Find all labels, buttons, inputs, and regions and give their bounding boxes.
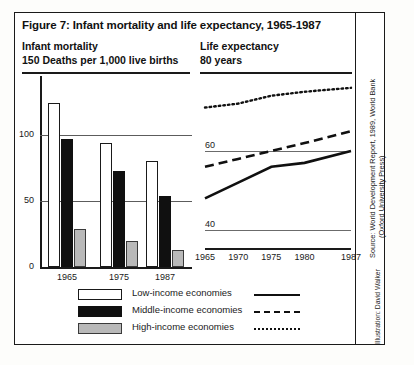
bar-y-tick-label: 100 [18,129,34,139]
bar-y-tick-label: 50 [18,195,34,205]
line-series-high-income [205,88,351,108]
bar-chart-y-axis [40,76,42,268]
bar-x-tick-label: 1965 [42,272,92,282]
legend-item-middle-income: Middle-income economies [78,303,314,320]
bar-high-income-1965 [74,229,86,267]
legend-swatch-high-income [78,323,122,334]
legend-swatch-low-income [78,289,122,300]
bar-high-income-1975 [126,241,138,267]
legend-label-middle-income: Middle-income economies [132,304,242,315]
legend-item-high-income: High-income economies [78,320,314,337]
figure-page: Figure 7: Infant mortality and life expe… [0,0,414,365]
legend-line-solid [254,294,300,296]
bar-middle-income-1975 [113,171,125,267]
line-x-tick-label: 1965 [192,252,218,262]
infant-mortality-bar-chart: 050100 196519751987 [22,76,192,272]
line-x-tick-label: 1975 [258,252,284,262]
source-note-line2: (Oxford University Press) [377,155,386,238]
legend-line-dotted [254,328,300,330]
legend-swatch-middle-income [78,306,122,317]
bar-low-income-1975 [100,143,112,267]
legend-label-high-income: High-income economies [132,321,234,332]
chart-legend: Low-income economies Middle-income econo… [78,286,314,337]
bar-high-income-1987 [172,250,184,267]
left-chart-top-rule [22,72,190,74]
line-chart-plot [200,60,360,272]
left-chart-subheading: 150 Deaths per 1,000 live births [22,54,178,66]
bar-x-tick-label: 1975 [94,272,144,282]
line-series-low-income [205,151,351,198]
bar-gridline [40,135,192,136]
line-x-tick-label: 1970 [225,252,251,262]
right-chart-heading: Life expectancy [200,40,279,52]
line-x-tick-label: 1980 [292,252,318,262]
source-note-line1: Source: World Development Report, 1989, … [368,79,377,258]
bar-chart-x-axis [40,267,192,269]
left-chart-heading: Infant mortality [22,40,98,52]
bar-y-tick-label: 0 [18,261,34,271]
life-expectancy-line-chart: 4060 19651970197519801987 [200,60,360,272]
bar-middle-income-1965 [61,139,73,267]
illustration-credit: Illustration: David Walker [373,269,382,344]
bar-middle-income-1987 [159,196,171,267]
bar-low-income-1965 [48,103,60,267]
bar-x-tick-label: 1987 [140,272,190,282]
legend-item-low-income: Low-income economies [78,286,314,303]
line-x-tick-label: 1987 [338,252,364,262]
line-chart-x-axis [205,248,351,250]
line-series-middle-income [205,131,351,167]
legend-label-low-income: Low-income economies [132,287,232,298]
legend-line-dashed [254,311,300,313]
figure-title: Figure 7: Infant mortality and life expe… [22,19,321,31]
bar-low-income-1987 [146,161,158,267]
